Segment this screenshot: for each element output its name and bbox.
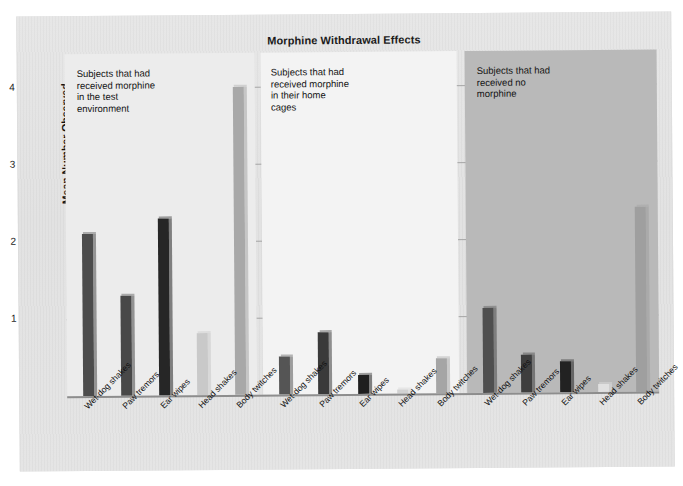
chart-figure: Morphine Withdrawal Effects Mean Number … bbox=[0, 0, 683, 486]
bar-g1-ear-wipes bbox=[157, 218, 169, 395]
y-tick-4: 4 bbox=[0, 82, 15, 93]
bar-g2-body-twitches bbox=[436, 359, 447, 394]
bar-g1-head-shakes bbox=[196, 333, 207, 395]
bar-top bbox=[561, 359, 574, 361]
y-tick-3: 3 bbox=[0, 159, 15, 170]
bar-top bbox=[198, 331, 211, 333]
bar-face bbox=[196, 333, 207, 395]
y-tick-2: 2 bbox=[0, 236, 16, 247]
bar-top bbox=[83, 232, 96, 234]
bar-top bbox=[159, 216, 172, 218]
bar-top bbox=[280, 354, 293, 356]
bar-top bbox=[359, 373, 372, 375]
plot-area: Mean Number Observed 1234 Subjects that … bbox=[65, 50, 660, 403]
bar-g3-ear-wipes bbox=[559, 361, 570, 392]
bar-g3-wet-dog-shakes bbox=[482, 308, 494, 393]
bar-top bbox=[121, 294, 134, 296]
bar-g1-body-twitches bbox=[232, 87, 245, 395]
group-background-panels bbox=[65, 50, 657, 55]
bar-top bbox=[522, 352, 535, 354]
bar-top bbox=[319, 331, 332, 333]
bar-g1-paw-tremors bbox=[120, 296, 132, 396]
bar-face bbox=[279, 356, 290, 395]
bar-top bbox=[437, 357, 450, 359]
bar-face bbox=[482, 308, 494, 393]
y-tick-1: 1 bbox=[0, 313, 17, 324]
group-note-1: Subjects that had received morphine in t… bbox=[77, 67, 156, 114]
group-note-3: Subjects that had received no morphine bbox=[477, 64, 551, 99]
bar-face bbox=[436, 359, 447, 394]
bar-g3-body-twitches bbox=[635, 207, 647, 392]
bar-side bbox=[329, 333, 332, 395]
scanned-chart-panel: Morphine Withdrawal Effects Mean Number … bbox=[16, 11, 675, 471]
bar-face bbox=[559, 361, 570, 392]
bar-top bbox=[484, 306, 497, 308]
bar-side bbox=[207, 333, 210, 395]
bar-top bbox=[600, 382, 613, 384]
bar-top bbox=[637, 205, 650, 207]
bar-top bbox=[234, 85, 247, 87]
bar-face bbox=[120, 296, 132, 396]
chart-title: Morphine Withdrawal Effects bbox=[16, 31, 671, 48]
bar-g2-wet-dog-shakes bbox=[279, 356, 290, 395]
group-note-2: Subjects that had received morphine in t… bbox=[271, 66, 350, 113]
bar-g1-wet-dog-shakes bbox=[81, 234, 93, 396]
